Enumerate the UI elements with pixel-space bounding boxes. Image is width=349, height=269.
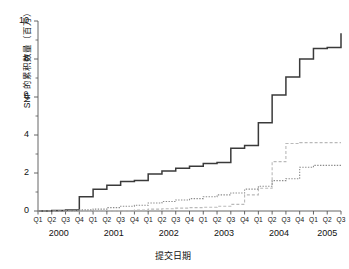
y-tick-label: 6 [13,91,29,101]
series-line-validated-snps [38,143,341,211]
y-tick-label: 0 [13,205,29,215]
y-tick-label: 2 [13,167,29,177]
x-quarter-tick-label: Q3 [333,216,349,223]
series-line-reference-snps [38,165,341,211]
y-tick-label: 4 [13,129,29,139]
x-year-label: 2003 [207,228,241,238]
series-line-submitted-snps-total [38,33,341,211]
x-year-label: 2004 [262,228,296,238]
x-year-label: 2000 [42,228,76,238]
y-tick-label: 10 [13,15,29,25]
x-year-label: 2001 [97,228,131,238]
x-year-label: 2002 [152,228,186,238]
y-tick-label: 8 [13,53,29,63]
x-year-label: 2005 [310,228,344,238]
